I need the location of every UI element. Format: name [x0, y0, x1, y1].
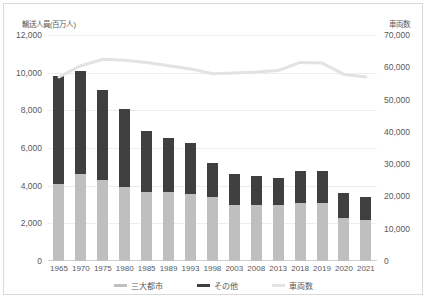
y-axis-right-tick-label: 40,000	[384, 128, 410, 137]
x-axis-tick-label: 1998	[201, 264, 223, 273]
bar-column[interactable]	[333, 35, 355, 261]
bar-series-group	[48, 35, 377, 261]
bar-segment-other[interactable]	[229, 174, 240, 205]
bar-segment-other[interactable]	[75, 71, 86, 175]
bar-segment-other[interactable]	[251, 176, 262, 205]
bar-segment-metro[interactable]	[75, 174, 86, 261]
x-axis-tick-label: 1980	[114, 264, 136, 273]
bar-column[interactable]	[201, 35, 223, 261]
bar-column[interactable]	[92, 35, 114, 261]
bar-segment-metro[interactable]	[207, 197, 218, 261]
bar-column[interactable]	[48, 35, 70, 261]
x-axis-tick-label: 2013	[267, 264, 289, 273]
stacked-bar[interactable]	[229, 174, 240, 261]
plot-area	[48, 35, 377, 261]
bar-segment-metro[interactable]	[229, 205, 240, 261]
bar-segment-other[interactable]	[338, 193, 349, 217]
y-axis-left-tick-label: 2,000	[8, 219, 42, 228]
bar-column[interactable]	[289, 35, 311, 261]
stacked-bar[interactable]	[141, 131, 152, 261]
x-axis-labels: 1965197019751980198519891993199820032008…	[48, 264, 377, 273]
x-axis-tick-label: 1970	[70, 264, 92, 273]
bar-segment-other[interactable]	[141, 131, 152, 192]
bar-segment-metro[interactable]	[185, 194, 196, 261]
y-axis-left-tick-label: 4,000	[8, 182, 42, 191]
legend-label: 三大都市	[131, 280, 163, 291]
stacked-bar[interactable]	[207, 163, 218, 261]
y-axis-right-tick-label: 10,000	[384, 225, 410, 234]
stacked-bar[interactable]	[295, 171, 306, 261]
bar-segment-other[interactable]	[360, 197, 371, 220]
stacked-bar[interactable]	[273, 178, 284, 261]
legend-swatch-bar-icon	[197, 284, 210, 287]
bar-column[interactable]	[158, 35, 180, 261]
stacked-bar[interactable]	[251, 176, 262, 261]
legend-swatch-bar-icon	[114, 284, 127, 287]
chart-container: 輸送人員(百万人) 車両数 02,0004,0006,0008,00010,00…	[3, 3, 423, 295]
y-axis-right-tick-label: 20,000	[384, 192, 410, 201]
y-axis-left-tick-label: 12,000	[8, 31, 42, 40]
y-axis-left-tick-label: 8,000	[8, 106, 42, 115]
legend-item[interactable]: 三大都市	[114, 280, 163, 291]
bar-segment-metro[interactable]	[251, 205, 262, 261]
left-axis-title: 輸送人員(百万人)	[22, 18, 76, 29]
bar-segment-metro[interactable]	[97, 180, 108, 261]
bar-segment-metro[interactable]	[338, 218, 349, 261]
x-axis-tick-label: 2021	[355, 264, 377, 273]
legend-label: その他	[214, 280, 238, 291]
x-axis-tick-label: 2019	[311, 264, 333, 273]
bar-column[interactable]	[311, 35, 333, 261]
bar-column[interactable]	[267, 35, 289, 261]
chart-legend: 三大都市その他車両数	[4, 280, 422, 291]
bar-segment-other[interactable]	[119, 109, 130, 186]
bar-segment-metro[interactable]	[295, 203, 306, 261]
bar-column[interactable]	[70, 35, 92, 261]
bar-segment-other[interactable]	[163, 138, 174, 193]
bar-column[interactable]	[223, 35, 245, 261]
y-axis-right-tick-label: 30,000	[384, 160, 410, 169]
legend-label: 車両数	[289, 280, 313, 291]
stacked-bar[interactable]	[185, 143, 196, 261]
bar-segment-metro[interactable]	[141, 192, 152, 261]
bar-segment-metro[interactable]	[317, 203, 328, 261]
bar-segment-other[interactable]	[317, 171, 328, 203]
y-axis-right-tick-label: 60,000	[384, 63, 410, 72]
bar-column[interactable]	[114, 35, 136, 261]
bar-column[interactable]	[180, 35, 202, 261]
y-axis-right-tick-label: 70,000	[384, 31, 410, 40]
bar-segment-other[interactable]	[185, 143, 196, 194]
stacked-bar[interactable]	[338, 193, 349, 261]
x-axis-tick-label: 2003	[223, 264, 245, 273]
bar-column[interactable]	[136, 35, 158, 261]
bar-segment-other[interactable]	[273, 178, 284, 205]
x-axis-tick-label: 2008	[245, 264, 267, 273]
bar-segment-metro[interactable]	[360, 220, 371, 261]
bar-segment-metro[interactable]	[273, 205, 284, 261]
x-axis-tick-label: 1993	[180, 264, 202, 273]
legend-item[interactable]: 車両数	[272, 280, 313, 291]
bar-column[interactable]	[245, 35, 267, 261]
bar-segment-other[interactable]	[53, 76, 64, 183]
y-axis-right-tick-label: 0	[384, 257, 389, 266]
stacked-bar[interactable]	[97, 90, 108, 261]
x-axis-tick-label: 1989	[158, 264, 180, 273]
stacked-bar[interactable]	[360, 197, 371, 261]
bar-segment-metro[interactable]	[53, 184, 64, 261]
bar-column[interactable]	[355, 35, 377, 261]
bar-segment-metro[interactable]	[119, 187, 130, 261]
bar-segment-other[interactable]	[207, 163, 218, 197]
x-axis-tick-label: 1975	[92, 264, 114, 273]
bar-segment-other[interactable]	[97, 90, 108, 180]
stacked-bar[interactable]	[53, 76, 64, 261]
x-axis-tick-label: 2020	[333, 264, 355, 273]
bar-segment-other[interactable]	[295, 171, 306, 203]
stacked-bar[interactable]	[317, 171, 328, 261]
legend-item[interactable]: その他	[197, 280, 238, 291]
stacked-bar[interactable]	[163, 138, 174, 261]
bar-segment-metro[interactable]	[163, 192, 174, 261]
stacked-bar[interactable]	[119, 109, 130, 261]
x-axis-tick-label: 1985	[136, 264, 158, 273]
y-axis-left-tick-label: 6,000	[8, 144, 42, 153]
stacked-bar[interactable]	[75, 71, 86, 261]
x-axis-tick-label: 2018	[289, 264, 311, 273]
